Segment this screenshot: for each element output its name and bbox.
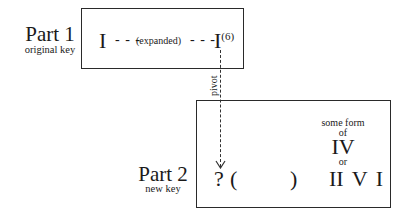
part2-open-paren: (	[230, 168, 237, 190]
part2-pivot-chord: ?	[214, 168, 224, 190]
part1-expanded-label: (expanded)	[136, 36, 181, 46]
part2-title: Part 2	[133, 164, 193, 185]
part2-option-iv: IV	[313, 136, 373, 158]
part2-subtitle: new key	[137, 183, 189, 194]
pivot-label: pivot	[208, 75, 219, 96]
part1-dashes-right: - - -	[190, 32, 216, 48]
part2-cadence: II V I	[329, 168, 383, 190]
part1-end-chord-inversion: (6)	[221, 30, 234, 42]
part1-title: Part 1	[20, 24, 80, 45]
part1-start-chord: I	[99, 30, 106, 52]
part1-subtitle: original key	[14, 44, 86, 55]
part1-end-chord: I(6)	[214, 30, 234, 55]
part2-close-paren: )	[290, 168, 297, 190]
